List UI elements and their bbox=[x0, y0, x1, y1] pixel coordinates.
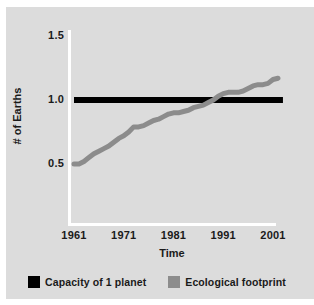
plot-series-layer bbox=[0, 0, 314, 305]
chart-legend: Capacity of 1 planetEcological footprint bbox=[0, 276, 314, 288]
series-line-1 bbox=[74, 78, 278, 164]
legend-entry: Ecological footprint bbox=[168, 276, 286, 288]
legend-swatch-icon bbox=[168, 276, 180, 288]
legend-entry: Capacity of 1 planet bbox=[28, 276, 146, 288]
legend-label: Capacity of 1 planet bbox=[45, 276, 146, 288]
chart-figure: 1.51.00.5 # of Earths 196119711981199120… bbox=[0, 0, 314, 305]
legend-swatch-icon bbox=[28, 276, 40, 288]
legend-label: Ecological footprint bbox=[185, 276, 286, 288]
